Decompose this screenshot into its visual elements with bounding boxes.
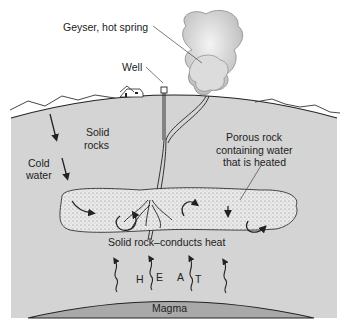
label-heat-e: E (156, 271, 163, 283)
label-well: Well (122, 61, 142, 73)
house-icon (120, 86, 143, 97)
label-heat-a: A (177, 271, 184, 283)
label-porous-3: that is heated (223, 156, 286, 168)
label-conducts-heat: Solid rock–conducts heat (108, 236, 225, 248)
label-solid-rocks-2: rocks (84, 139, 109, 151)
label-solid-rocks-1: Solid (86, 126, 110, 138)
label-porous-1: Porous rock (226, 131, 283, 143)
well-leader-line (146, 67, 163, 83)
label-cold-water-1: Cold (28, 157, 50, 169)
porous-rock-region (60, 188, 297, 233)
label-magma: Magma (152, 302, 187, 314)
label-heat-t: T (195, 273, 202, 285)
label-heat-h: H (136, 273, 144, 285)
label-cold-water-2: water (25, 169, 52, 181)
steam-cloud (183, 10, 243, 95)
label-porous-2: containing water (216, 144, 293, 156)
label-geyser: Geyser, hot spring (63, 21, 148, 33)
geothermal-diagram: Geyser, hot spring Well Solid rocks Cold… (0, 0, 348, 329)
